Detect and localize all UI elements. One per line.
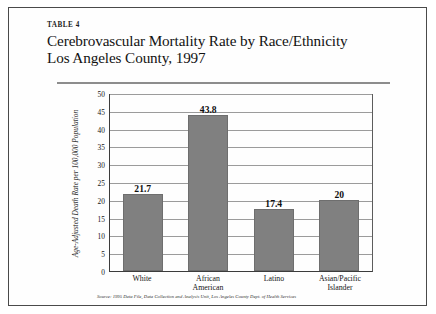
y-tick-label: 0 xyxy=(101,268,105,277)
y-tick-label: 40 xyxy=(98,125,105,134)
title-divider xyxy=(57,82,390,84)
bar-slot: 17.4 xyxy=(242,94,305,271)
y-tick-label: 15 xyxy=(98,214,105,223)
y-tick-label: 30 xyxy=(98,161,105,170)
x-category-label: AfricanAmerican xyxy=(176,274,239,292)
page-subtitle: Los Angeles County, 1997 xyxy=(47,49,387,66)
x-category-label: Asian/PacificIslander xyxy=(308,274,371,292)
x-category-label-line: African xyxy=(176,274,239,283)
x-category-label: White xyxy=(110,274,173,292)
bar-slot: 20 xyxy=(308,94,371,271)
bar-value-label: 21.7 xyxy=(134,183,151,194)
y-tick-label: 20 xyxy=(98,196,105,205)
x-category-label-line: Islander xyxy=(308,283,371,292)
plot-wrapper: 50454035302520151050 21.743.817.420 xyxy=(87,94,377,272)
bar[interactable]: 43.8 xyxy=(188,115,228,271)
x-category-label-line: Asian/Pacific xyxy=(308,274,371,283)
document-page: TABLE 4 Cerebrovascular Mortality Rate b… xyxy=(0,0,436,314)
bar-value-label: 17.4 xyxy=(265,198,282,209)
y-axis-ticks: 50454035302520151050 xyxy=(87,94,107,272)
x-category-label: Latino xyxy=(242,274,305,292)
table-number-label: TABLE 4 xyxy=(47,21,387,29)
page-title: Cerebrovascular Mortality Rate by Race/E… xyxy=(47,32,387,49)
plot-area: 21.743.817.420 xyxy=(109,94,373,272)
x-axis-categories: WhiteAfricanAmericanLatinoAsian/PacificI… xyxy=(109,274,373,292)
bar-value-label: 20 xyxy=(334,189,344,200)
bar[interactable]: 21.7 xyxy=(123,194,163,271)
y-tick-label: 35 xyxy=(98,143,105,152)
bar-slot: 21.7 xyxy=(111,94,174,271)
y-tick-label: 45 xyxy=(98,107,105,116)
bar-series: 21.743.817.420 xyxy=(110,94,372,271)
y-tick-label: 5 xyxy=(101,250,105,259)
x-category-label-line: Latino xyxy=(242,274,305,283)
bar[interactable]: 17.4 xyxy=(254,209,294,271)
source-note: Source: 1995 Data File, Data Collection … xyxy=(97,294,397,299)
x-category-label-line: White xyxy=(110,274,173,283)
y-axis-title-text: Age-Adjusted Death Rate per 100,000 Popu… xyxy=(72,109,81,256)
y-axis-title: Age-Adjusted Death Rate per 100,000 Popu… xyxy=(69,94,83,272)
chart-header: TABLE 4 Cerebrovascular Mortality Rate b… xyxy=(47,21,387,66)
y-tick-label: 50 xyxy=(98,90,105,99)
bar-chart: Age-Adjusted Death Rate per 100,000 Popu… xyxy=(71,94,377,290)
bar[interactable]: 20 xyxy=(319,200,359,271)
bar-value-label: 43.8 xyxy=(200,104,217,115)
x-category-label-line: American xyxy=(176,283,239,292)
y-tick-label: 10 xyxy=(98,232,105,241)
page-frame: TABLE 4 Cerebrovascular Mortality Rate b… xyxy=(8,7,427,306)
bar-slot: 43.8 xyxy=(177,94,240,271)
y-tick-label: 25 xyxy=(98,179,105,188)
